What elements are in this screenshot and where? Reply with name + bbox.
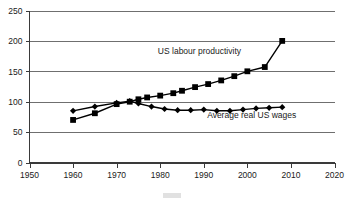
data-point-marker — [244, 68, 250, 74]
data-point-marker — [218, 78, 224, 84]
x-tick-label: 1970 — [107, 170, 126, 180]
x-tick-label: 2010 — [281, 170, 300, 180]
y-tick-label: 250 — [8, 6, 22, 16]
data-point-marker — [157, 93, 163, 99]
data-point-marker — [70, 117, 76, 123]
x-tick-label: 1950 — [20, 170, 39, 180]
series-label-productivity: US labour productivity — [158, 46, 242, 56]
y-tick-label: 200 — [8, 36, 22, 46]
x-tick-label: 2020 — [325, 170, 344, 180]
line-chart: 050100150200250 195019601970198019902000… — [0, 0, 349, 203]
y-tick-label: 150 — [8, 67, 22, 77]
data-point-marker — [262, 64, 268, 70]
data-point-marker — [92, 110, 98, 116]
series-label-wages: Average real US wages — [207, 110, 296, 120]
data-point-marker — [144, 95, 150, 101]
x-tick-label: 1980 — [151, 170, 170, 180]
x-tick-label: 2000 — [238, 170, 257, 180]
y-tick-label: 50 — [13, 127, 23, 137]
data-point-marker — [279, 38, 285, 44]
y-tick-label: 100 — [8, 97, 22, 107]
x-tick-label: 1960 — [64, 170, 83, 180]
page-footer-artifact — [163, 193, 181, 198]
data-point-marker — [170, 90, 176, 96]
x-tick-label: 1990 — [194, 170, 213, 180]
data-point-marker — [179, 88, 185, 94]
chart-container: 050100150200250 195019601970198019902000… — [0, 0, 349, 203]
y-tick-label: 0 — [18, 158, 23, 168]
data-point-marker — [205, 81, 211, 87]
data-point-marker — [192, 84, 198, 90]
data-point-marker — [231, 73, 237, 79]
